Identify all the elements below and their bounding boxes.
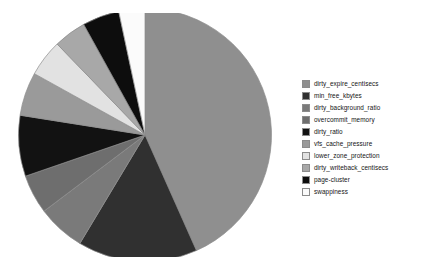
- legend-swatch-icon: [302, 176, 310, 184]
- legend-item[interactable]: page-cluster: [302, 175, 422, 186]
- pie-chart-figure: dirty_expire_centisecsmin_free_kbytesdir…: [0, 0, 422, 269]
- legend-item[interactable]: lower_zone_protection: [302, 151, 422, 162]
- pie-svg: [18, 13, 272, 257]
- legend-swatch-icon: [302, 188, 310, 196]
- legend-item-label: swappiness: [314, 187, 348, 197]
- legend-swatch-icon: [302, 140, 310, 148]
- legend-item-label: dirty_ratio: [314, 127, 343, 137]
- legend-item[interactable]: dirty_writeback_centisecs: [302, 163, 422, 174]
- pie-plot-area: [18, 13, 272, 257]
- legend-item[interactable]: overcommit_memory: [302, 115, 422, 126]
- legend-item[interactable]: swappiness: [302, 187, 422, 198]
- legend-item-label: dirty_background_ratio: [314, 103, 380, 113]
- legend-item-label: dirty_expire_centisecs: [314, 79, 379, 89]
- legend-swatch-icon: [302, 80, 310, 88]
- legend-item-label: dirty_writeback_centisecs: [314, 163, 388, 173]
- legend-swatch-icon: [302, 128, 310, 136]
- legend-item-label: min_free_kbytes: [314, 91, 362, 101]
- pie-slice-group: [19, 13, 272, 257]
- legend-item-label: lower_zone_protection: [314, 151, 380, 161]
- legend-item-label: overcommit_memory: [314, 115, 375, 125]
- legend-item[interactable]: vfs_cache_pressure: [302, 139, 422, 150]
- legend-swatch-icon: [302, 164, 310, 172]
- legend-swatch-icon: [302, 104, 310, 112]
- legend-item[interactable]: dirty_expire_centisecs: [302, 79, 422, 90]
- legend-item-label: page-cluster: [314, 175, 350, 185]
- legend-swatch-icon: [302, 92, 310, 100]
- legend-swatch-icon: [302, 116, 310, 124]
- chart-legend: dirty_expire_centisecsmin_free_kbytesdir…: [302, 79, 422, 199]
- legend-item-label: vfs_cache_pressure: [314, 139, 372, 149]
- legend-item[interactable]: dirty_background_ratio: [302, 103, 422, 114]
- legend-item[interactable]: min_free_kbytes: [302, 91, 422, 102]
- legend-swatch-icon: [302, 152, 310, 160]
- legend-item[interactable]: dirty_ratio: [302, 127, 422, 138]
